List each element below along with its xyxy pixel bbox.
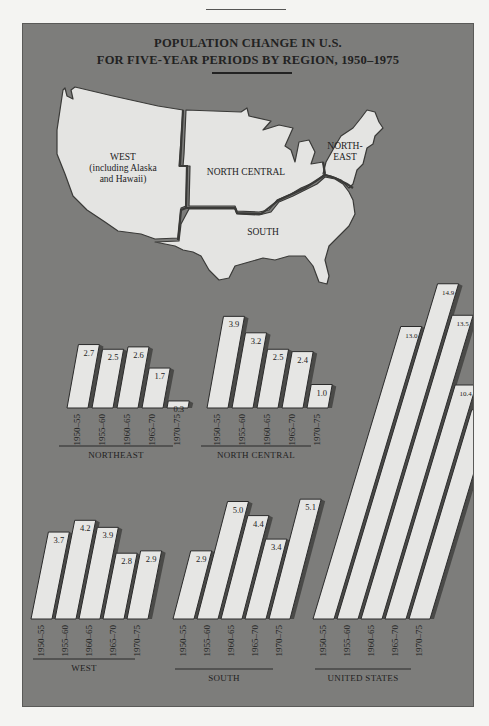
category-label: 1955–60 [342,625,352,657]
bar-value-label: 1.0 [316,388,327,398]
bar-value-label: 14.9 [442,289,455,297]
category-label: 1965–70 [287,414,297,446]
category-label: 1970–75 [414,625,424,657]
bar-value-label: 0.3 [173,404,184,414]
bar-value-label: 2.9 [196,554,207,564]
bar-value-label: 5.0 [233,505,244,515]
bar-group-northeast: 2.71950–552.51955–602.61960–651.71965–70… [59,345,193,460]
category-label: 1965–70 [147,414,157,446]
category-label: 1950–55 [36,625,46,657]
category-label: 1955–60 [97,414,107,446]
category-label: 1960–65 [122,414,132,446]
bar-charts: 2.71950–552.51955–602.61960–651.71965–70… [23,24,473,706]
bar-value-label: 4.4 [253,519,264,529]
bar-value-label: 2.4 [297,355,308,365]
bar-value-label: 13.0 [405,332,418,340]
category-label: 1950–55 [318,625,328,657]
category-label: 1970–75 [312,414,322,446]
bar-value-label: 3.7 [54,535,65,545]
category-label: 1955–60 [237,414,247,446]
group-label: WEST [71,663,97,673]
category-label: 1950–55 [72,414,82,446]
category-label: 1955–60 [202,625,212,657]
category-label: 1960–65 [262,414,272,446]
bar-value-label: 2.7 [84,348,95,358]
bar-value-label: 3.9 [229,319,240,329]
group-label: SOUTH [208,673,240,683]
bar-value-label: 2.8 [121,556,132,566]
bar-value-label: 2.5 [108,352,119,362]
category-label: 1965–70 [390,625,400,657]
bar-value-label: 2.6 [133,350,144,360]
category-label: 1950–55 [178,625,188,657]
bar-value-label: 1.7 [154,371,165,381]
category-label: 1970–75 [132,625,142,657]
category-label: 1970–75 [274,625,284,657]
group-label: NORTH CENTRAL [217,450,295,460]
category-label: 1965–70 [250,625,260,657]
category-label: 1955–60 [60,625,70,657]
bar-group-north-central: 3.91950–553.21955–602.51960–652.41965–70… [201,316,336,460]
bar-value-label: 4.2 [80,523,91,533]
bar-group-south: 2.91950–555.01955–604.41960–653.41965–70… [173,499,325,683]
bar-group-united-states: 13.01950–5514.91955–6013.51960–6510.4196… [313,284,473,683]
bar-group-west: 3.71950–554.21955–603.91960–652.81965–70… [31,520,166,673]
bar-value-label: 3.2 [251,336,262,346]
group-label: UNITED STATES [328,673,399,683]
group-label: NORTHEAST [88,450,144,460]
category-label: 1960–65 [84,625,94,657]
chart-panel: POPULATION CHANGE IN U.S. FOR FIVE-YEAR … [22,23,474,707]
bar-value-label: 3.9 [103,530,114,540]
category-label: 1970–75 [172,414,182,446]
page-number [230,718,260,726]
bar-value-label: 13.5 [457,320,470,328]
category-label: 1950–55 [212,414,222,446]
bar-value-label: 10.4 [460,390,473,398]
bar-value-label: 5.1 [305,502,316,512]
category-label: 1960–65 [226,625,236,657]
bar-value-label: 3.4 [271,542,282,552]
category-label: 1965–70 [108,625,118,657]
bar-value-label: 2.5 [273,352,284,362]
bar-value-label: 2.9 [146,554,157,564]
header-rule [206,9,286,10]
category-label: 1960–65 [366,625,376,657]
